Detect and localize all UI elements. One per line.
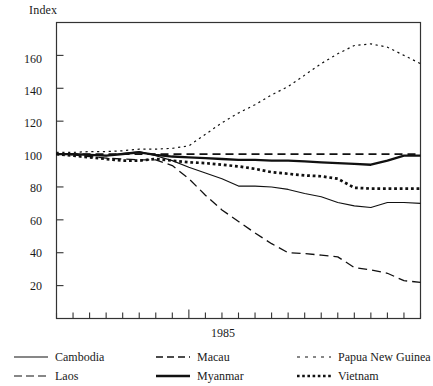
axis-frame <box>57 23 421 319</box>
plot-area <box>0 0 433 386</box>
solid-thin-icon <box>14 351 48 363</box>
legend-item-laos[interactable]: Laos <box>14 367 78 384</box>
legend-item-cambodia[interactable]: Cambodia <box>14 348 104 365</box>
series-line-papua-new-guinea <box>57 44 421 153</box>
legend-label-laos: Laos <box>55 370 78 382</box>
series-line-laos <box>57 154 421 282</box>
dashed-long-icon <box>14 370 48 382</box>
legend-item-macau[interactable]: Macau <box>156 348 230 365</box>
chart-legend: Cambodia Macau Papua New Guinea Laos Mya… <box>14 348 424 384</box>
legend-label-myanmar: Myanmar <box>197 370 244 382</box>
legend-item-vietnam[interactable]: Vietnam <box>297 367 379 384</box>
dotted-bold-icon <box>297 370 331 382</box>
legend-label-cambodia: Cambodia <box>55 351 104 363</box>
legend-item-myanmar[interactable]: Myanmar <box>156 367 244 384</box>
y-axis-ticks <box>57 55 64 285</box>
legend-label-vietnam: Vietnam <box>338 370 379 382</box>
solid-thick-icon <box>156 370 190 382</box>
x-axis-ticks <box>57 310 421 319</box>
chart-figure: Index 160 140 120 100 80 60 40 20 1985 C… <box>0 0 433 386</box>
legend-item-papua-new-guinea[interactable]: Papua New Guinea <box>297 348 431 365</box>
data-series-layer <box>57 44 421 282</box>
legend-label-macau: Macau <box>197 351 230 363</box>
legend-label-papua-new-guinea: Papua New Guinea <box>338 351 431 363</box>
dotted-sparse-icon <box>297 351 331 363</box>
dashed-medium-icon <box>156 351 190 363</box>
